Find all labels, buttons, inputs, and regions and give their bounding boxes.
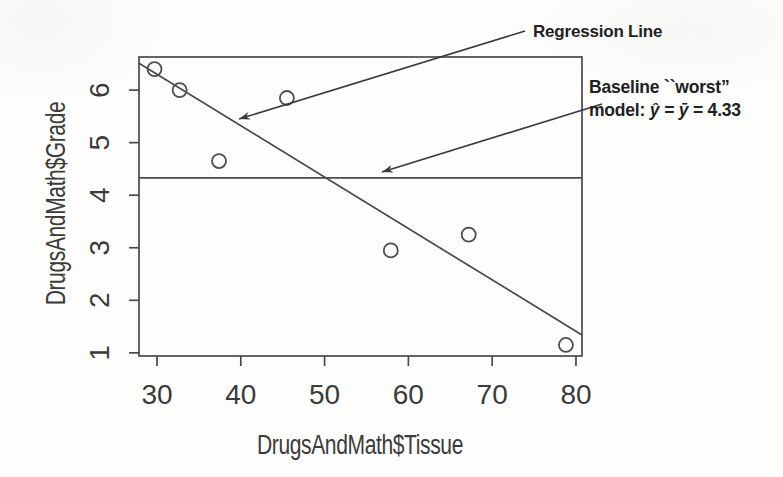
data-point bbox=[384, 243, 398, 257]
data-point bbox=[212, 154, 226, 168]
data-point bbox=[462, 228, 476, 242]
baseline-annotation-line2: model: ŷ = ȳ = 4.33 bbox=[589, 100, 741, 120]
y-axis-tick-label: 1 bbox=[84, 345, 115, 361]
y-axis-tick-label: 3 bbox=[84, 240, 115, 256]
x-axis-tick-label: 60 bbox=[393, 379, 424, 410]
plot-box bbox=[139, 57, 582, 356]
y-axis-title: DrugsAndMath$Grade bbox=[41, 87, 72, 321]
baseline-annotation-arrow bbox=[382, 104, 602, 172]
y-axis-tick-label: 6 bbox=[84, 82, 115, 98]
plot-canvas: 304050607080123456 bbox=[0, 0, 783, 477]
y-hat-y-bar-math: ŷ = ȳ bbox=[650, 100, 688, 120]
x-axis-tick-label: 50 bbox=[309, 379, 340, 410]
x-axis-tick-label: 40 bbox=[225, 379, 256, 410]
regression-annotation-arrow bbox=[239, 31, 525, 119]
baseline-model-annotation: Baseline ``worst” model: ŷ = ȳ = 4.33 bbox=[589, 76, 741, 122]
regression-line bbox=[139, 63, 582, 335]
x-axis-tick-label: 70 bbox=[477, 379, 508, 410]
x-axis-tick-label: 30 bbox=[141, 379, 172, 410]
x-axis-title: DrugsAndMath$Tissue bbox=[243, 430, 477, 461]
baseline-annotation-line1: Baseline ``worst” bbox=[589, 77, 730, 97]
regression-line-annotation: Regression Line bbox=[533, 22, 662, 42]
x-axis-tick-label: 80 bbox=[560, 379, 591, 410]
y-axis-tick-label: 4 bbox=[84, 187, 115, 203]
y-axis-tick-label: 2 bbox=[84, 293, 115, 309]
scatter-plot-figure: 304050607080123456 DrugsAndMath$Tissue D… bbox=[0, 0, 783, 477]
data-point bbox=[559, 338, 573, 352]
data-point bbox=[173, 83, 187, 97]
y-axis-tick-label: 5 bbox=[84, 135, 115, 151]
